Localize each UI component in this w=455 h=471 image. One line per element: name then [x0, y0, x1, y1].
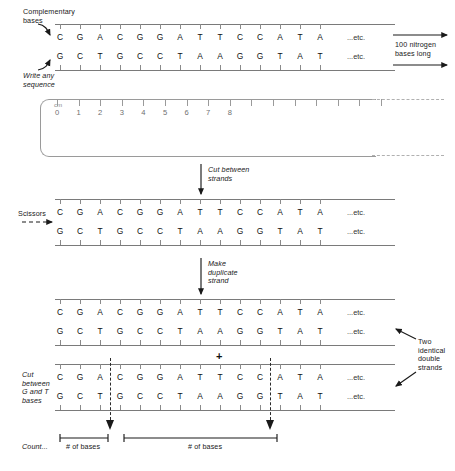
cut-arrow-head [106, 420, 114, 430]
overlay-vectors [0, 0, 455, 471]
dna-diagram: CGACGGATTCCATA GCTGCCTAAGGTAT ...etc. ..… [0, 0, 455, 471]
bracket-right [124, 434, 277, 442]
bracket-left [60, 434, 108, 442]
arrow-two-identical-upper [396, 329, 416, 339]
arrow-two-identical-lower [396, 372, 416, 386]
arrow-write-any-sequence [38, 60, 50, 70]
cut-arrow-head [266, 420, 274, 430]
arrow-complementary-bases [38, 24, 50, 35]
